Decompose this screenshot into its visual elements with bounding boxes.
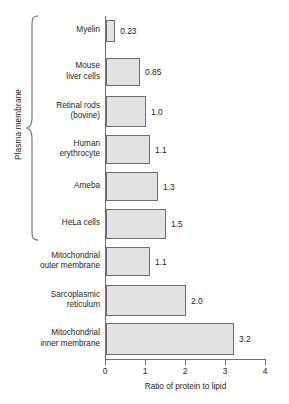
bar-value-label: 1.0: [151, 107, 163, 117]
bar-value-label: 1.1: [155, 145, 167, 155]
bar: [106, 285, 186, 316]
bar: [106, 135, 150, 164]
bar-category-label-line: Retinal rods: [8, 101, 100, 112]
bar-category-label: Ameba: [8, 181, 100, 192]
bar: [106, 172, 158, 201]
bar-category-label-line: erythrocyte: [8, 149, 100, 160]
plasma-membrane-bracket: [26, 14, 40, 246]
bar-category-label: HeLa cells: [8, 218, 100, 229]
x-tick-label-3: 3: [215, 366, 235, 376]
x-axis-title: Ratio of protein to lipid: [105, 382, 266, 391]
x-tick-3: [225, 360, 226, 365]
bar: [106, 323, 234, 355]
bar-category-label-line: Mouse: [8, 61, 100, 72]
x-tick-4: [265, 360, 266, 365]
bar-value-label: 0.85: [145, 67, 161, 77]
bar-category-label-line: Mitochondrial: [8, 251, 100, 262]
bar-value-label: 1.3: [163, 182, 175, 192]
x-tick-label-0: 0: [95, 366, 115, 376]
x-tick-label-2: 2: [175, 366, 195, 376]
x-tick-label-4: 4: [255, 366, 275, 376]
bar-value-label: 1.1: [155, 257, 167, 267]
bar: [106, 209, 166, 239]
bar-value-label: 2.0: [191, 296, 203, 306]
bar: [106, 247, 150, 276]
bar-category-label-line: (bovine): [8, 111, 100, 122]
bar-category-label: Sarcoplasmicreticulum: [8, 290, 100, 311]
bar-value-label: 1.5: [171, 219, 183, 229]
bar-category-label-line: Mitochondrial: [8, 328, 100, 339]
bar-category-label-line: Sarcoplasmic: [8, 290, 100, 301]
bar: [106, 58, 140, 86]
bar-category-label-line: liver cells: [8, 72, 100, 83]
bar-category-label: Mouseliver cells: [8, 61, 100, 82]
bar-category-label: Mitochondrialinner membrane: [8, 328, 100, 349]
bar-category-label-line: reticulum: [8, 300, 100, 311]
bar-category-label-line: Ameba: [8, 181, 100, 192]
x-tick-1: [145, 360, 146, 365]
bar-category-label-line: Myelin: [8, 25, 100, 36]
x-tick-label-1: 1: [135, 366, 155, 376]
bar-value-label: 0.23: [120, 26, 136, 36]
bar-value-label: 3.2: [239, 334, 251, 344]
bar: [106, 20, 115, 42]
bar: [106, 96, 146, 127]
bar-category-label: Retinal rods(bovine): [8, 101, 100, 122]
x-tick-2: [185, 360, 186, 365]
bar-category-label-line: Human: [8, 139, 100, 150]
bar-category-label-line: inner membrane: [8, 339, 100, 350]
bar-category-label-line: outer membrane: [8, 261, 100, 272]
protein-lipid-ratio-chart: Plasma membrane 0 1 2 3 4 Ratio of prote…: [0, 0, 289, 404]
bar-category-label: Humanerythrocyte: [8, 139, 100, 160]
bar-category-label: Myelin: [8, 25, 100, 36]
bar-category-label-line: HeLa cells: [8, 218, 100, 229]
x-tick-0: [105, 360, 106, 365]
bar-category-label: Mitochondrialouter membrane: [8, 251, 100, 272]
